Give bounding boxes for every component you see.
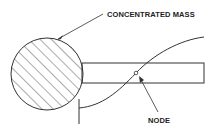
node-marker <box>134 71 138 75</box>
mode-shape-curve <box>79 37 204 108</box>
concentrated-mass-label: CONCENTRATED MASS <box>107 10 195 19</box>
mass-leader-arrow <box>57 14 103 40</box>
concentrated-mass <box>10 37 85 112</box>
cantilever-mass-diagram <box>0 0 216 133</box>
node-leader-arrow <box>139 76 158 112</box>
node-label: NODE <box>148 116 170 125</box>
